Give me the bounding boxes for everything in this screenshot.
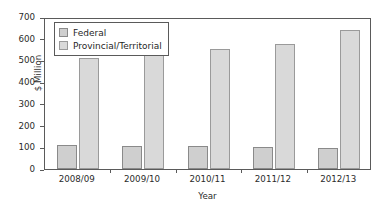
y-axis-tick-mark bbox=[40, 83, 44, 84]
bar-federal bbox=[188, 146, 208, 169]
x-axis-tick-label: 2009/10 bbox=[112, 175, 172, 184]
legend-item-provincial: Provincial/Territorial bbox=[59, 39, 162, 52]
bar-federal bbox=[122, 146, 142, 169]
y-axis-tick-mark bbox=[40, 104, 44, 105]
bar-federal bbox=[57, 145, 77, 169]
legend-swatch-icon-provincial bbox=[59, 41, 68, 50]
y-axis-tick-mark bbox=[40, 126, 44, 127]
bar-provincial bbox=[340, 30, 360, 169]
x-axis-tick-mark bbox=[110, 169, 111, 173]
x-axis-tick-label: 2011/12 bbox=[243, 175, 303, 184]
bar-provincial bbox=[79, 58, 99, 169]
x-axis-tick-mark bbox=[176, 169, 177, 173]
y-axis-tick-label: 700 bbox=[18, 13, 35, 22]
y-axis-tick-label: 300 bbox=[18, 100, 35, 109]
legend-swatch-icon-federal bbox=[59, 28, 68, 37]
x-axis-tick-mark bbox=[241, 169, 242, 173]
plot-frame: Federal Provincial/Territorial bbox=[44, 18, 371, 170]
x-axis-tick-label: 2012/13 bbox=[308, 175, 368, 184]
y-axis-tick-mark bbox=[40, 170, 44, 171]
y-axis-tick-mark bbox=[40, 61, 44, 62]
y-axis-tick-mark bbox=[40, 39, 44, 40]
legend-item-federal: Federal bbox=[59, 26, 162, 39]
y-axis-tick-label: 200 bbox=[18, 122, 35, 131]
y-axis-tick-label: 600 bbox=[18, 35, 35, 44]
bar-provincial bbox=[275, 44, 295, 170]
bar-chart-figure: $ Million Federal Provincial/Territorial… bbox=[0, 0, 379, 210]
legend-label-provincial: Provincial/Territorial bbox=[73, 41, 162, 51]
y-axis-tick-label: 0 bbox=[29, 165, 35, 174]
bar-federal bbox=[318, 148, 338, 169]
bar-provincial bbox=[210, 49, 230, 169]
bar-provincial bbox=[144, 52, 164, 169]
bar-federal bbox=[253, 147, 273, 169]
x-axis-tick-label: 2008/09 bbox=[47, 175, 107, 184]
legend-label-federal: Federal bbox=[73, 28, 106, 38]
chart-legend: Federal Provincial/Territorial bbox=[54, 22, 169, 56]
y-axis-tick-label: 500 bbox=[18, 56, 35, 65]
y-axis-tick-label: 100 bbox=[18, 143, 35, 152]
x-axis-title: Year bbox=[44, 191, 371, 201]
y-axis-tick-label: 400 bbox=[18, 78, 35, 87]
y-axis-tick-mark bbox=[40, 18, 44, 19]
y-axis-tick-mark bbox=[40, 148, 44, 149]
x-axis-tick-mark bbox=[307, 169, 308, 173]
x-axis-tick-label: 2010/11 bbox=[178, 175, 238, 184]
